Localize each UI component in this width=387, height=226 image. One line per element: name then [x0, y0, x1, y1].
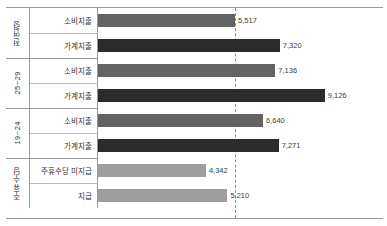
group-separator [6, 108, 98, 109]
group-separator [6, 58, 98, 59]
bar-track: 4,342 [98, 158, 387, 183]
bar-value-label: 7,271 [279, 139, 301, 152]
bar-group: 19~24소비지출6,640가계지출7,271 [0, 108, 387, 158]
bar-group: 25~29소비지출7,136가계지출9,126 [0, 58, 387, 108]
bar-value-label: 9,126 [325, 89, 347, 102]
bar-row-label: 소비지출 [30, 58, 96, 83]
bar [98, 64, 275, 77]
bar-track: 5,210 [98, 183, 387, 208]
bar-track: 6,640 [98, 108, 387, 133]
bar-row-label: 주휴수당 미지급 [30, 158, 96, 183]
bar-value-label: 4,342 [206, 164, 228, 177]
row-divider [30, 83, 98, 84]
bar-track: 7,271 [98, 133, 387, 158]
bar-group: 전연령소비지출5,517가계지출7,320 [0, 8, 387, 58]
row-divider [30, 183, 98, 184]
bar [98, 39, 280, 52]
bar [98, 114, 263, 127]
bar [98, 139, 279, 152]
bar-track: 7,136 [98, 58, 387, 83]
horizontal-bar-chart: 전연령소비지출5,517가계지출7,32025~29소비지출7,136가계지출9… [0, 0, 387, 226]
bar-track: 7,320 [98, 33, 387, 58]
bar-value-label: 7,320 [280, 39, 302, 52]
bar-row: 소비지출6,640 [0, 108, 387, 133]
bar-row: 가계지출7,271 [0, 133, 387, 158]
bar-row-label: 가계지출 [30, 133, 96, 158]
group-separator [6, 158, 98, 159]
bar-value-label: 6,640 [263, 114, 285, 127]
bar-row-label: 지급 [30, 183, 96, 208]
bar [98, 189, 227, 202]
bar-group: 주휴수당주휴수당 미지급4,342지급5,210 [0, 158, 387, 208]
bar-track: 5,517 [98, 8, 387, 33]
bar-row-label: 소비지출 [30, 8, 96, 33]
chart-bottom-rule [6, 218, 383, 219]
bar-value-label: 5,517 [235, 14, 257, 27]
bar [98, 164, 206, 177]
bar-track: 9,126 [98, 83, 387, 108]
bar-row-label: 가계지출 [30, 83, 96, 108]
bar-row: 가계지출7,320 [0, 33, 387, 58]
bar-row-label: 가계지출 [30, 33, 96, 58]
bar-value-label: 5,210 [227, 189, 249, 202]
row-divider [30, 33, 98, 34]
bar-row: 가계지출9,126 [0, 83, 387, 108]
bar-row: 지급5,210 [0, 183, 387, 208]
bar [98, 89, 325, 102]
bar-row: 주휴수당 미지급4,342 [0, 158, 387, 183]
bar-value-label: 7,136 [275, 64, 297, 77]
bar [98, 14, 235, 27]
bar-row: 소비지출5,517 [0, 8, 387, 33]
bar-row: 소비지출7,136 [0, 58, 387, 83]
row-divider [30, 133, 98, 134]
bar-row-label: 소비지출 [30, 108, 96, 133]
